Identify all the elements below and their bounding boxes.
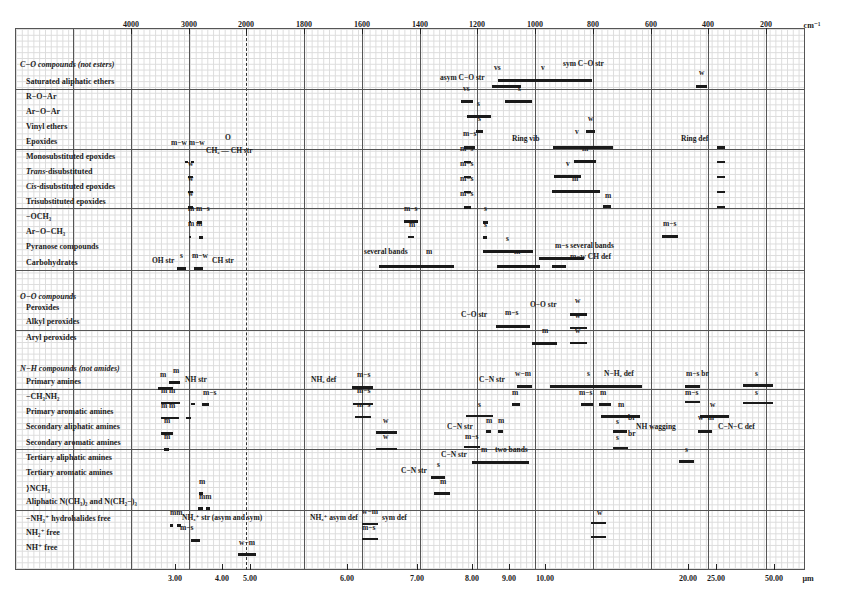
absorption-band bbox=[496, 325, 530, 328]
band-annotation: m bbox=[160, 370, 166, 379]
band-annotation: m−s bbox=[460, 144, 473, 153]
band-annotation: mm bbox=[199, 492, 212, 501]
section-divider bbox=[15, 89, 805, 90]
absorption-band bbox=[696, 85, 707, 88]
bottom-tick-label: 50.00 bbox=[765, 574, 783, 583]
band-annotation: m m bbox=[188, 219, 202, 228]
band-annotation: w bbox=[597, 508, 602, 517]
section-label: O−O compounds bbox=[20, 292, 76, 301]
band-annotation: m bbox=[582, 144, 588, 153]
row-label: −CH₃NH₂ bbox=[26, 392, 59, 401]
absorption-band bbox=[376, 448, 397, 450]
band-annotation: m−s bbox=[460, 174, 473, 183]
band-annotation: C−N str bbox=[441, 450, 467, 459]
row-label: Vinyl ethers bbox=[26, 122, 67, 131]
band-annotation: w bbox=[188, 189, 193, 198]
absorption-band bbox=[599, 403, 611, 406]
row-label: Ar−O−Ar bbox=[26, 107, 60, 116]
row-label: Cis-disubstituted epoxides bbox=[26, 182, 115, 191]
band-annotation: w bbox=[383, 416, 388, 425]
band-annotation: s bbox=[180, 251, 183, 260]
absorption-band bbox=[464, 206, 471, 209]
absorption-band bbox=[717, 161, 725, 163]
absorption-band bbox=[191, 403, 195, 405]
band-annotation: s bbox=[484, 204, 487, 213]
band-annotation: m−s bbox=[357, 400, 370, 409]
band-annotation: m−s bbox=[579, 388, 592, 397]
absorption-band bbox=[505, 100, 532, 103]
band-annotation: s bbox=[484, 220, 487, 229]
absorption-band bbox=[189, 236, 191, 238]
band-annotation: m bbox=[164, 416, 170, 425]
band-annotation: m bbox=[481, 445, 487, 454]
band-annotation: sym C−O str bbox=[563, 59, 604, 68]
band-annotation: br bbox=[628, 429, 636, 438]
band-annotation: m bbox=[440, 477, 446, 486]
grid-vline-200 bbox=[766, 28, 767, 570]
band-annotation: several bands bbox=[364, 247, 408, 256]
band-annotation: O−O str bbox=[530, 300, 557, 309]
row-label: Pyranose compounds bbox=[26, 242, 99, 251]
absorption-band bbox=[517, 385, 532, 388]
band-annotation: m−s bbox=[357, 370, 370, 379]
row-label: Tertiary aromatic amines bbox=[26, 468, 113, 477]
absorption-band bbox=[679, 460, 694, 463]
top-tickmark bbox=[304, 28, 305, 34]
row-label: Aliphatic N(CH₃)₂ and N(CH₂−)₃ bbox=[26, 497, 137, 506]
band-annotation: m bbox=[164, 432, 170, 441]
band-annotation: m m−s bbox=[188, 204, 210, 213]
absorption-band bbox=[685, 401, 700, 403]
chart-frame bbox=[15, 28, 805, 570]
band-annotation: m bbox=[600, 388, 606, 397]
band-annotation: NH₃⁺ asym def bbox=[310, 513, 358, 522]
band-annotation: m−s bbox=[465, 432, 478, 441]
absorption-band bbox=[483, 250, 533, 253]
section-label: C−O compounds (not esters) bbox=[20, 60, 114, 69]
absorption-band bbox=[191, 539, 200, 542]
band-annotation: NH wagging bbox=[636, 422, 676, 431]
bottom-tickmark bbox=[509, 564, 510, 570]
bottom-tick-label: 4.00 bbox=[215, 574, 229, 583]
absorption-band bbox=[613, 447, 628, 449]
row-label: Primary amines bbox=[26, 377, 81, 386]
band-annotation: two bands bbox=[495, 445, 528, 454]
absorption-band bbox=[202, 403, 209, 406]
row-label: Secondary aromatic amines bbox=[26, 438, 121, 447]
bottom-tickmark bbox=[175, 564, 176, 570]
absorption-band bbox=[379, 265, 454, 268]
absorption-band bbox=[492, 85, 521, 88]
band-annotation: w−m bbox=[239, 538, 255, 547]
band-annotation: Ring vib bbox=[512, 134, 539, 143]
top-tickmark bbox=[766, 28, 767, 34]
grid-vline-1600 bbox=[362, 28, 363, 570]
absorption-band bbox=[532, 342, 557, 345]
band-annotation: w bbox=[188, 159, 193, 168]
absorption-band bbox=[461, 100, 473, 103]
band-annotation: m−s bbox=[362, 523, 375, 532]
absorption-band bbox=[464, 446, 480, 448]
band-annotation: s bbox=[616, 417, 619, 426]
absorption-band bbox=[743, 402, 773, 404]
band-annotation: v bbox=[541, 63, 545, 72]
absorption-band bbox=[717, 176, 725, 178]
row-label: NH⁺ free bbox=[26, 542, 57, 552]
band-annotation: v bbox=[575, 127, 579, 136]
absorption-band bbox=[434, 492, 450, 495]
band-annotation: CH str bbox=[212, 256, 234, 265]
bottom-tickmark bbox=[417, 564, 418, 570]
band-annotation: w bbox=[575, 296, 580, 305]
absorption-band bbox=[408, 236, 414, 238]
top-tickmark bbox=[420, 28, 421, 34]
top-tickmark bbox=[131, 28, 132, 34]
absorption-band bbox=[717, 146, 725, 149]
top-tickmark bbox=[246, 28, 247, 34]
absorption-band bbox=[552, 190, 600, 193]
band-annotation: s bbox=[437, 460, 440, 469]
band-annotation: N−H₂ def bbox=[604, 369, 634, 378]
absorption-band bbox=[498, 430, 503, 433]
top-axis-unit: cm⁻¹ bbox=[804, 20, 821, 30]
absorption-band bbox=[498, 79, 592, 82]
band-annotation: w bbox=[710, 400, 715, 409]
band-annotation: C−N str bbox=[479, 375, 505, 384]
band-annotation: m m bbox=[161, 386, 175, 395]
